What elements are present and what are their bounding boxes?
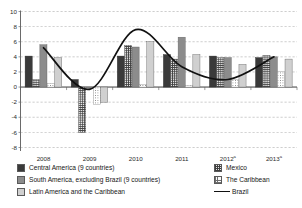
svg-text:-8: -8 — [11, 144, 17, 151]
svg-text:-6: -6 — [11, 129, 17, 136]
svg-text:2013a: 2013a — [266, 154, 283, 161]
svg-text:2009: 2009 — [83, 155, 97, 162]
legend-label-south-america: South America, excluding Brazil (9 count… — [29, 176, 160, 184]
legend-item-south-america: South America, excluding Brazil (9 count… — [17, 174, 160, 185]
legend-label-brazil: Brazil — [232, 188, 249, 196]
svg-text:-2: -2 — [11, 98, 17, 105]
chart-container: -8-6-4-2024681020082009201020112012a2013… — [0, 0, 302, 208]
svg-text:2010: 2010 — [129, 155, 143, 162]
legend-item-mexico: Mexico — [214, 162, 247, 173]
svg-text:2011: 2011 — [175, 155, 189, 162]
legend-label-latin-america-caribbean: Latin America and the Caribbean — [29, 188, 125, 196]
legend-swatch-latin-america-caribbean — [17, 188, 25, 196]
svg-text:2008: 2008 — [37, 155, 51, 162]
legend-item-brazil: Brazil — [214, 186, 249, 197]
top-crop-strip — [0, 0, 302, 4]
legend-item-latin-america-caribbean: Latin America and the Caribbean — [17, 186, 125, 197]
svg-text:6: 6 — [14, 38, 18, 45]
legend-label-caribbean: The Caribbean — [226, 176, 270, 184]
legend-swatch-central-america — [17, 164, 25, 172]
legend-swatch-brazil-line — [214, 191, 230, 192]
legend-label-central-america: Central America (9 countries) — [29, 164, 114, 172]
svg-text:2: 2 — [14, 68, 18, 75]
legend-label-mexico: Mexico — [226, 164, 247, 172]
svg-text:2012a: 2012a — [220, 154, 237, 161]
svg-text:8: 8 — [14, 23, 18, 30]
legend-swatch-south-america — [17, 176, 25, 184]
legend-swatch-caribbean — [214, 176, 222, 184]
legend-swatch-mexico — [214, 164, 222, 172]
svg-text:10: 10 — [10, 8, 17, 15]
chart-legend: Central America (9 countries) South Amer… — [17, 162, 302, 208]
svg-text:4: 4 — [14, 53, 18, 60]
legend-item-caribbean: The Caribbean — [214, 174, 270, 185]
legend-item-central-america: Central America (9 countries) — [17, 162, 114, 173]
svg-text:-4: -4 — [11, 113, 17, 120]
svg-text:0: 0 — [14, 83, 18, 90]
